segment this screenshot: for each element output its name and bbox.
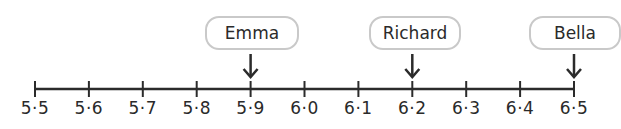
tick-label: 5·7 xyxy=(129,98,158,118)
down-arrow-icon xyxy=(567,54,581,77)
down-arrow-icon xyxy=(244,54,258,77)
name-box-emma: Emma xyxy=(205,16,299,50)
marker-label: Richard xyxy=(383,23,448,43)
tick-label: 5·5 xyxy=(21,98,50,118)
tick-label: 6·0 xyxy=(290,98,319,118)
name-box-bella: Bella xyxy=(529,16,621,50)
tick-label: 6·4 xyxy=(506,98,535,118)
tick-label: 6·5 xyxy=(560,98,589,118)
tick-label: 5·6 xyxy=(75,98,104,118)
down-arrow-icon xyxy=(405,54,419,77)
name-box-richard: Richard xyxy=(369,16,461,50)
tick-label: 6·2 xyxy=(398,98,427,118)
tick-label: 6·1 xyxy=(344,98,373,118)
tick-label: 5·8 xyxy=(182,98,211,118)
marker-label: Bella xyxy=(554,23,596,43)
arrows xyxy=(244,54,581,77)
tick-label: 5·9 xyxy=(236,98,265,118)
marker-label: Emma xyxy=(225,23,279,43)
tick-label: 6·3 xyxy=(452,98,481,118)
